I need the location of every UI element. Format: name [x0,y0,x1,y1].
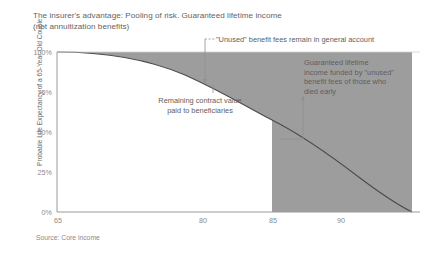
annotation-remaining-value: Remaining contract value paid to benefic… [141,96,259,116]
source-note: Source: Core income [36,234,100,241]
plot-background-right-gap [412,160,432,212]
annotation-unused-fees: "Unused" benefit fees remain in general … [216,35,430,45]
chart-figure: The insurer's advantage: Pooling of risk… [0,0,432,258]
annotation-guaranteed-income: Guaranteed lifetime income funded by "un… [304,58,430,96]
